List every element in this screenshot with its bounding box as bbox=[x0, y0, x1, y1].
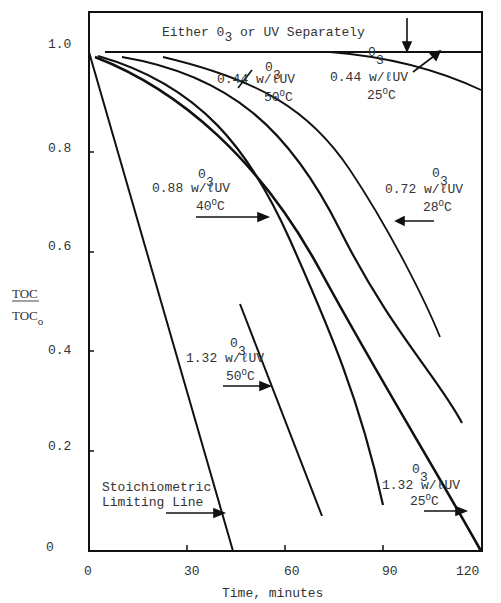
svg-text:1.32 w/ℓUV: 1.32 w/ℓUV bbox=[186, 351, 264, 366]
curve-072-28 bbox=[163, 57, 440, 337]
label-132-50: 0 3 1.32 w/ℓUV 50OC bbox=[186, 336, 264, 384]
x-tick-label: 60 bbox=[284, 564, 300, 579]
label-072-28: 0 3 0.72 w/ℓUV 28OC bbox=[385, 166, 463, 215]
label-132-25: 0 3 1.32 w/ℓUV 25OC bbox=[382, 462, 460, 509]
x-tick-label: 90 bbox=[382, 564, 398, 579]
y-tick-label: 0.8 bbox=[48, 141, 71, 156]
y-tick-label: 0.6 bbox=[48, 239, 71, 254]
svg-text:0: 0 bbox=[412, 462, 420, 477]
curve-stoichiometric bbox=[89, 52, 233, 551]
x-tick-label: 30 bbox=[184, 564, 200, 579]
label-separately: Either 03 or UV Separately bbox=[162, 25, 365, 45]
label-088-40: 0 3 0.88 w/ℓUV 40OC bbox=[152, 167, 230, 214]
y-tick-label: 0.4 bbox=[48, 343, 72, 358]
svg-text:50OC: 50OC bbox=[226, 368, 255, 384]
y-axis-title-denominator: TOCo bbox=[12, 308, 44, 327]
curve-088-40 bbox=[98, 56, 383, 505]
chart-figure: 1.0 0.8 0.6 0.4 0.2 0 0 30 60 90 120 Tim… bbox=[0, 0, 501, 603]
svg-text:Stoichiometric: Stoichiometric bbox=[102, 480, 211, 495]
svg-text:0.44 w/ℓUV: 0.44 w/ℓUV bbox=[217, 72, 295, 87]
svg-text:40OC: 40OC bbox=[196, 198, 225, 214]
svg-text:0.44 w/ℓUV: 0.44 w/ℓUV bbox=[330, 70, 408, 85]
label-stoichiometric: Stoichiometric Limiting Line bbox=[102, 480, 211, 510]
svg-text:0: 0 bbox=[198, 167, 206, 182]
curve-132-50 bbox=[240, 304, 322, 516]
y-tick-label: 1.0 bbox=[48, 37, 71, 52]
svg-text:25OC: 25OC bbox=[410, 493, 439, 509]
svg-text:0.88 w/ℓUV: 0.88 w/ℓUV bbox=[152, 181, 230, 196]
svg-text:1.32 w/ℓUV: 1.32 w/ℓUV bbox=[382, 478, 460, 493]
svg-text:0.72 w/ℓUV: 0.72 w/ℓUV bbox=[385, 182, 463, 197]
y-tick-label: 0.2 bbox=[48, 439, 71, 454]
svg-text:0: 0 bbox=[432, 166, 440, 181]
x-tick-label: 120 bbox=[456, 564, 479, 579]
x-axis-title: Time, minutes bbox=[222, 586, 323, 601]
curve-044-50 bbox=[122, 57, 462, 423]
svg-text:0: 0 bbox=[230, 336, 238, 351]
y-axis-title-numerator: TOC bbox=[12, 286, 38, 301]
svg-text:28OC: 28OC bbox=[423, 199, 452, 215]
annotation-arrows bbox=[166, 18, 466, 517]
x-tick-label: 0 bbox=[84, 564, 92, 579]
svg-text:25OC: 25OC bbox=[367, 87, 396, 103]
y-tick-label: 0 bbox=[46, 540, 54, 555]
svg-text:0: 0 bbox=[368, 45, 376, 60]
svg-text:Limiting Line: Limiting Line bbox=[102, 495, 203, 510]
svg-text:50OC: 50OC bbox=[264, 89, 293, 105]
label-044-50: 0 3 0.44 w/ℓUV 50OC bbox=[217, 60, 295, 105]
svg-text:3: 3 bbox=[376, 53, 384, 68]
